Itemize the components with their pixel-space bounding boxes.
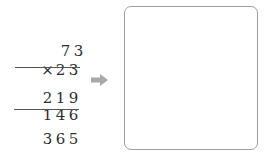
digit: 6 [54, 130, 67, 148]
arrow-right-icon [91, 74, 108, 86]
result-row: 365 [22, 112, 80, 157]
divider-line [14, 109, 79, 110]
answer-box[interactable] [124, 6, 258, 150]
divider-line [15, 67, 80, 68]
digit: 3 [41, 130, 54, 148]
digit: 5 [67, 130, 80, 148]
